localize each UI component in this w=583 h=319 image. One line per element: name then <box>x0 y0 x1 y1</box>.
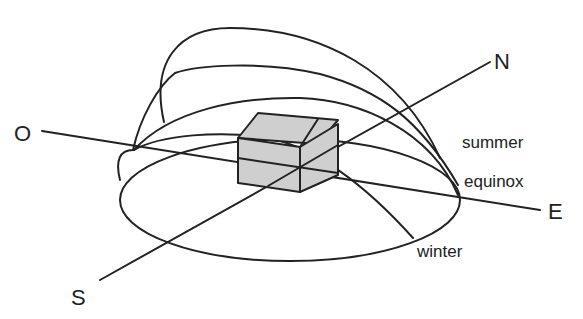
label-east: E <box>548 199 563 224</box>
house <box>238 113 338 192</box>
sun-path-diagram: O N E S summer equinox winter <box>0 0 583 319</box>
label-south: S <box>71 285 86 310</box>
label-west: O <box>14 121 31 146</box>
label-equinox: equinox <box>464 172 524 191</box>
label-north: N <box>494 49 510 74</box>
label-summer: summer <box>462 133 524 152</box>
label-winter: winter <box>416 242 463 261</box>
